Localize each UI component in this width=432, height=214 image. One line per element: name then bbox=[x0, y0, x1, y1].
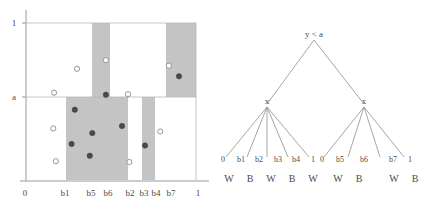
leaf-label: B bbox=[356, 173, 363, 184]
right-leaf-edge-3 bbox=[364, 107, 380, 157]
data-point-open bbox=[166, 63, 171, 68]
data-point-open bbox=[74, 66, 79, 71]
data-point-filled bbox=[90, 130, 95, 135]
x-tick-label-b5: b5 bbox=[87, 188, 97, 198]
x-tick-label-b2: b2 bbox=[126, 188, 135, 198]
y-tick-label-1: 1 bbox=[12, 18, 17, 28]
data-point-open bbox=[158, 129, 163, 134]
data-point-filled bbox=[72, 107, 77, 112]
decision-tree-svg: y < a x x 0 b1 b2 b3 b4 1 0 b5 b6 b7 1 W bbox=[216, 0, 432, 214]
x-tick-labels: 0 b1 b5 b6 b2 b3 b4 b7 1 bbox=[23, 188, 201, 198]
data-point-filled bbox=[176, 74, 181, 79]
left-internal-node-label: x bbox=[265, 96, 270, 106]
leaf-label: W bbox=[308, 173, 318, 184]
leaf-label: B bbox=[289, 173, 296, 184]
data-point-filled bbox=[103, 92, 108, 97]
right-subtree-edges bbox=[324, 107, 404, 157]
data-point-open bbox=[103, 58, 108, 63]
data-point-filled bbox=[69, 141, 74, 146]
left-leaf-edge-2 bbox=[247, 107, 267, 157]
node-labels: y < a x x bbox=[265, 29, 367, 106]
data-point-open bbox=[52, 90, 57, 95]
left-edge-label-0: 0 bbox=[221, 155, 225, 164]
data-point-open bbox=[51, 126, 56, 131]
right-leaf-labels: W B W B bbox=[333, 173, 418, 184]
left-leaf-edge-4 bbox=[267, 107, 288, 157]
y-tick-label-a: a bbox=[12, 92, 16, 102]
root-node-label: y < a bbox=[305, 29, 323, 39]
x-tick-label-1: 1 bbox=[196, 188, 201, 198]
x-tick-label-b7: b7 bbox=[167, 188, 177, 198]
x-tick-label-b4: b4 bbox=[152, 188, 162, 198]
left-edge-label-1: 1 bbox=[311, 155, 315, 164]
data-point-filled bbox=[142, 143, 147, 148]
right-edge-labels: 0 b5 b6 b7 1 bbox=[320, 155, 412, 164]
right-leaf-edge-4 bbox=[364, 107, 404, 157]
left-edge-label-b4: b4 bbox=[292, 155, 300, 164]
shaded-bands bbox=[66, 23, 196, 180]
left-edge-label-b3: b3 bbox=[274, 155, 282, 164]
right-edge-label-1: 1 bbox=[408, 155, 412, 164]
right-edge-label-b5: b5 bbox=[336, 155, 344, 164]
data-point-open bbox=[127, 159, 132, 164]
data-point-open bbox=[53, 159, 58, 164]
left-leaf-edge-5 bbox=[267, 107, 309, 157]
data-point-filled bbox=[119, 123, 124, 128]
right-edge-label-b7: b7 bbox=[389, 155, 397, 164]
root-edges bbox=[267, 40, 364, 104]
y-tick-labels: 1 a bbox=[12, 18, 17, 102]
x-tick-label-0: 0 bbox=[23, 188, 28, 198]
left-leaf-labels: W B W B W bbox=[224, 173, 318, 184]
leaf-label: W bbox=[333, 173, 343, 184]
x-tick-label-b6: b6 bbox=[104, 188, 114, 198]
root-edge-left bbox=[267, 40, 314, 104]
right-internal-node-label: x bbox=[362, 96, 367, 106]
data-point-open bbox=[125, 92, 130, 97]
decision-tree-panel: y < a x x 0 b1 b2 b3 b4 1 0 b5 b6 b7 1 W bbox=[216, 0, 432, 214]
root-edge-right bbox=[314, 40, 364, 104]
leaf-label: W bbox=[224, 173, 234, 184]
left-edge-labels: 0 b1 b2 b3 b4 1 bbox=[221, 155, 315, 164]
left-edge-label-b2: b2 bbox=[255, 155, 263, 164]
leaf-label: W bbox=[266, 173, 276, 184]
leaf-label: B bbox=[412, 173, 419, 184]
left-edge-label-b1: b1 bbox=[237, 155, 245, 164]
right-leaf-edge-2 bbox=[348, 107, 364, 157]
right-leaf-edge-1 bbox=[324, 107, 364, 157]
x-tick-label-b1: b1 bbox=[61, 188, 70, 198]
partition-plot-panel: 1 a 0 b1 b5 b6 b2 b3 b4 b7 1 bbox=[0, 0, 216, 214]
left-subtree-edges bbox=[226, 107, 309, 157]
right-edge-label-0: 0 bbox=[320, 155, 324, 164]
figure-container: 1 a 0 b1 b5 b6 b2 b3 b4 b7 1 bbox=[0, 0, 432, 214]
leaf-label: W bbox=[389, 173, 399, 184]
leaf-label: B bbox=[247, 173, 254, 184]
left-leaf-edge-1 bbox=[226, 107, 267, 157]
x-tick-label-b3: b3 bbox=[140, 188, 150, 198]
band-upper-b7-1 bbox=[166, 23, 196, 97]
band-lower-b3-b4 bbox=[142, 97, 155, 180]
data-point-filled bbox=[87, 153, 92, 158]
partition-plot-svg: 1 a 0 b1 b5 b6 b2 b3 b4 b7 1 bbox=[0, 0, 216, 214]
right-edge-label-b6: b6 bbox=[360, 155, 368, 164]
